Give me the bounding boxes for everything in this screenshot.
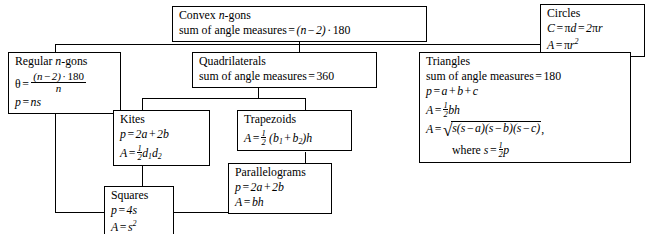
node-quadrilaterals: Quadrilaterals sum of angle measures=360 xyxy=(192,52,377,88)
node-triangles-formula-5: where s=12p xyxy=(426,141,625,159)
node-circles-formula-1: C=πd=2πr xyxy=(547,22,639,36)
node-circles-title: Circles xyxy=(547,7,639,21)
node-squares-formula-2: A=s2 xyxy=(111,219,168,234)
node-parallelograms-title: Parallelograms xyxy=(235,166,326,180)
node-regular-ngons: Regular n-gons θ=(n−2)·180n p=ns xyxy=(8,52,121,114)
node-regular-ngons-formula-2: p=ns xyxy=(15,96,115,110)
node-triangles: Triangles sum of angle measures=180 p=a+… xyxy=(419,52,631,163)
node-squares: Squares p=4s A=s2 xyxy=(104,186,174,234)
node-parallelograms-formula-1: p=2a+2b xyxy=(235,181,326,195)
node-convex-ngons-title: Convex n-gons xyxy=(179,9,421,23)
node-circles: Circles C=πd=2πr A=πr2 xyxy=(540,4,645,57)
node-trapezoids-formula-1: A=12 (b1+b2)h xyxy=(244,129,346,147)
node-triangles-formula-1: sum of angle measures=180 xyxy=(426,70,625,84)
node-quadrilaterals-title: Quadrilaterals xyxy=(199,55,371,69)
node-parallelograms-formula-2: A=bh xyxy=(235,196,326,210)
node-squares-formula-1: p=4s xyxy=(111,204,168,218)
node-kites: Kites p=2a+2b A=12d1d2 xyxy=(113,110,210,166)
node-convex-ngons-formula-1: sum of angle measures=(n−2)·180 xyxy=(179,24,421,38)
node-triangles-formula-3: A=12bh xyxy=(426,101,625,119)
node-regular-ngons-title: Regular n-gons xyxy=(15,55,115,69)
node-triangles-title: Triangles xyxy=(426,55,625,69)
node-regular-ngons-formula-1: θ=(n−2)·180n xyxy=(15,71,115,94)
node-quadrilaterals-formula-1: sum of angle measures=360 xyxy=(199,70,371,84)
node-kites-title: Kites xyxy=(120,113,204,127)
node-kites-formula-1: p=2a+2b xyxy=(120,128,204,142)
node-convex-ngons: Convex n-gons sum of angle measures=(n−2… xyxy=(172,6,427,42)
node-circles-formula-2: A=πr2 xyxy=(547,37,639,53)
node-trapezoids-title: Trapezoids xyxy=(244,113,346,127)
node-kites-formula-2: A=12d1d2 xyxy=(120,144,204,162)
node-trapezoids: Trapezoids A=12 (b1+b2)h xyxy=(237,110,352,151)
node-triangles-formula-2: p=a+b+c xyxy=(426,85,625,99)
node-squares-title: Squares xyxy=(111,189,168,203)
node-triangles-formula-4: A=√s(s−a)(s−b)(s−c), xyxy=(426,122,625,139)
node-parallelograms: Parallelograms p=2a+2b A=bh xyxy=(228,163,332,214)
formula-hierarchy-diagram: Convex n-gons sum of angle measures=(n−2… xyxy=(0,0,650,234)
